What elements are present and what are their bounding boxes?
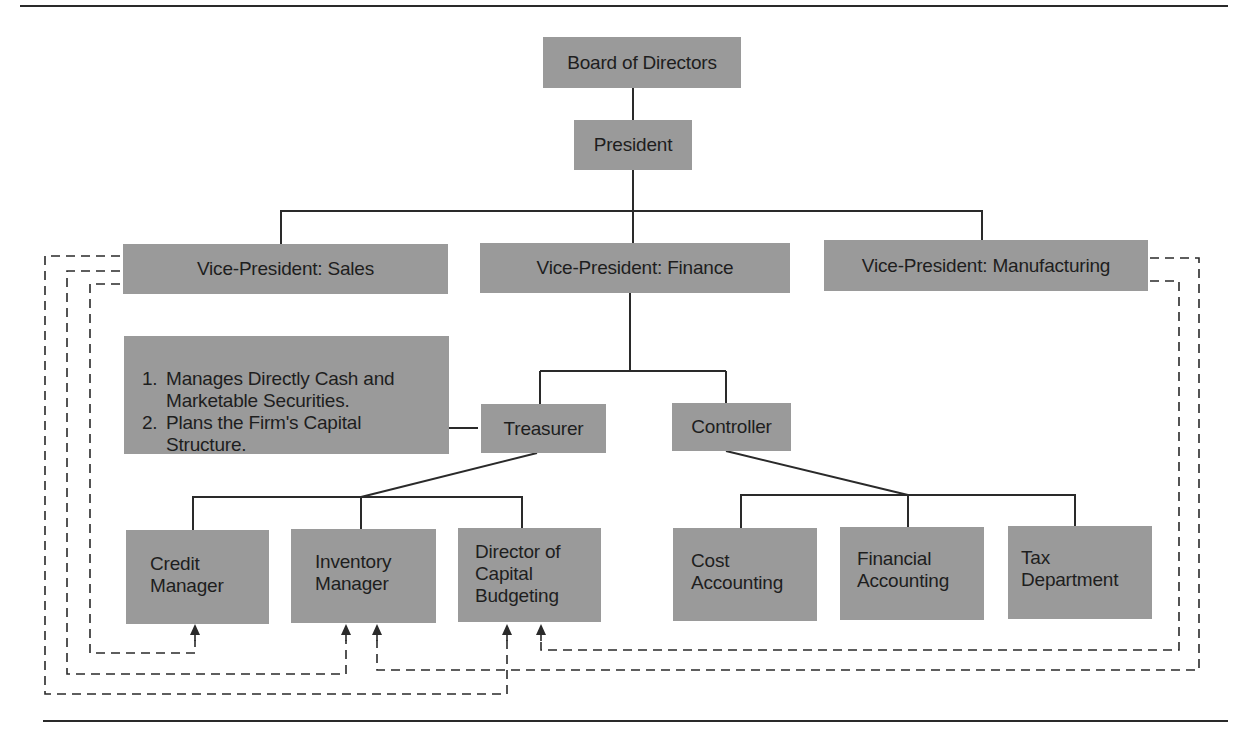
node-vp-finance: Vice-President: Finance <box>480 243 790 293</box>
arrowheads <box>190 624 546 635</box>
node-label: Controller <box>691 416 771 438</box>
node-label-line: Financial <box>857 548 984 570</box>
node-label: Vice-President: Manufacturing <box>862 255 1110 277</box>
node-label: Board of Directors <box>567 52 717 74</box>
node-credit-manager: Credit Manager <box>126 530 269 624</box>
node-label-line: Director of <box>475 541 601 563</box>
node-treasurer: Treasurer <box>481 404 606 453</box>
note-item: 2. Plans the Firm's Capital Structure. <box>142 412 439 456</box>
node-label-line: Manager <box>315 573 436 595</box>
node-label: Treasurer <box>504 418 584 440</box>
note-item: 1. Manages Directly Cash and Marketable … <box>142 368 439 412</box>
note-text: Plans the Firm's Capital Structure. <box>166 412 361 456</box>
node-president: President <box>574 120 692 170</box>
node-label-line: Tax <box>1021 547 1152 569</box>
node-label-line: Accounting <box>857 570 984 592</box>
node-controller: Controller <box>672 403 791 451</box>
node-tax-department: Tax Department <box>1008 526 1152 619</box>
node-label: Vice-President: Sales <box>197 258 374 280</box>
node-label-line: Inventory <box>315 551 436 573</box>
note-number: 1. <box>142 368 166 412</box>
node-label-line: Manager <box>150 575 269 597</box>
note-text: Manages Directly Cash and Marketable Sec… <box>166 368 394 412</box>
node-label-line: Capital <box>475 563 601 585</box>
node-inventory-manager: Inventory Manager <box>291 529 436 623</box>
node-label: Vice-President: Finance <box>537 257 734 279</box>
node-vp-manufacturing: Vice-President: Manufacturing <box>824 240 1148 291</box>
note-number: 2. <box>142 412 166 456</box>
node-director-capital-budgeting: Director of Capital Budgeting <box>458 528 601 622</box>
treasurer-notes-box: 1. Manages Directly Cash and Marketable … <box>124 336 449 454</box>
node-vp-sales: Vice-President: Sales <box>123 244 448 294</box>
node-label-line: Cost <box>691 550 817 572</box>
node-label-line: Budgeting <box>475 585 601 607</box>
node-label-line: Credit <box>150 553 269 575</box>
node-cost-accounting: Cost Accounting <box>673 528 817 621</box>
node-label-line: Accounting <box>691 572 817 594</box>
node-board-of-directors: Board of Directors <box>543 37 741 88</box>
node-financial-accounting: Financial Accounting <box>840 527 984 620</box>
node-label-line: Department <box>1021 569 1152 591</box>
node-label: President <box>594 134 672 156</box>
